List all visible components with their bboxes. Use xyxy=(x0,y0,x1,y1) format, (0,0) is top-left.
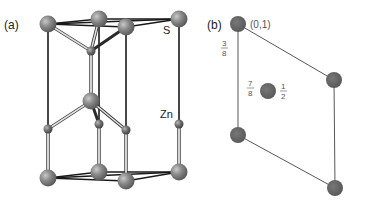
cell-edge xyxy=(238,24,334,80)
cell-edge xyxy=(238,135,335,188)
fraction-1-2: 1 2 xyxy=(280,82,287,101)
projected-atom xyxy=(326,72,342,88)
sulfur-atom xyxy=(83,93,100,110)
sulfur-atom xyxy=(118,19,135,36)
zinc-atom xyxy=(44,125,53,134)
bonds xyxy=(48,19,179,181)
corner-coordinate-label: (0,1) xyxy=(250,19,271,30)
svg-text:7: 7 xyxy=(248,79,253,88)
projected-atom xyxy=(230,16,246,32)
svg-text:8: 8 xyxy=(248,89,253,98)
panel-a: (a) xyxy=(4,11,188,190)
zinc-atom xyxy=(87,47,96,56)
fraction-3-8: 3 8 xyxy=(221,39,228,58)
projected-atom xyxy=(230,127,246,143)
panel-a-label: (a) xyxy=(4,18,19,32)
projected-atom xyxy=(327,180,343,196)
projected-atom-center xyxy=(260,83,276,99)
panel-b: (b) (0,1) 3 8 7 8 1 xyxy=(207,16,343,196)
zinc-label: Zn xyxy=(160,108,173,120)
sulfur-atom xyxy=(171,11,188,28)
svg-text:1: 1 xyxy=(281,82,286,91)
sulfur-atom xyxy=(171,164,188,181)
svg-text:3: 3 xyxy=(222,39,227,48)
sulfur-atom xyxy=(91,164,108,181)
svg-text:8: 8 xyxy=(222,49,227,58)
zinc-atom xyxy=(95,120,104,129)
sulfur-atom xyxy=(40,16,57,33)
unit-cell-edges xyxy=(48,19,179,181)
cell-edge xyxy=(334,80,335,188)
sulfur-atom xyxy=(40,170,57,187)
fraction-7-8: 7 8 xyxy=(247,79,254,98)
sulfur-atom xyxy=(91,11,108,28)
zinc-atom xyxy=(122,126,131,135)
svg-text:2: 2 xyxy=(281,92,286,101)
zns-wurtzite-figure: (a) xyxy=(0,0,367,201)
panel-b-label: (b) xyxy=(207,18,222,32)
sulfur-label: S xyxy=(163,24,170,36)
projection-atoms xyxy=(230,16,343,196)
projection-cell xyxy=(238,24,335,188)
sulfur-atom xyxy=(118,173,135,190)
zinc-atom xyxy=(175,120,184,129)
